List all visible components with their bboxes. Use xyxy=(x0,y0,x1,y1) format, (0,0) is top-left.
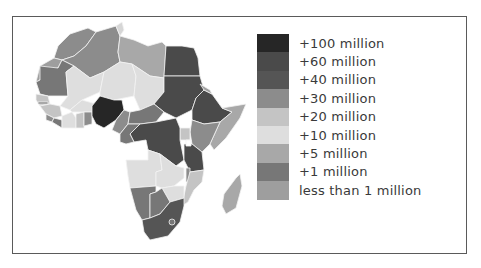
country-uganda xyxy=(180,128,190,140)
legend-item: +60 million xyxy=(257,52,421,70)
legend-item: +30 million xyxy=(257,89,421,107)
legend-swatch xyxy=(257,163,289,181)
legend-item: +5 million xyxy=(257,144,421,162)
country-guinea xyxy=(40,104,62,118)
legend-item: less than 1 million xyxy=(257,181,421,199)
country-gambia xyxy=(38,102,48,104)
legend-label: +100 million xyxy=(299,36,385,51)
legend-item: +100 million xyxy=(257,34,421,52)
legend-swatch xyxy=(257,89,289,107)
legend: +100 million +60 million +40 million +30… xyxy=(257,34,421,200)
country-ghana xyxy=(76,112,84,128)
country-mozambique xyxy=(182,170,204,206)
legend-item: +40 million xyxy=(257,71,421,89)
legend-label: +5 million xyxy=(299,146,368,161)
legend-swatch xyxy=(257,52,289,70)
country-togo-benin xyxy=(84,112,92,126)
legend-swatch xyxy=(257,34,289,52)
legend-label: +30 million xyxy=(299,91,376,106)
legend-swatch xyxy=(257,108,289,126)
country-egypt xyxy=(164,46,200,76)
legend-item: +1 million xyxy=(257,163,421,181)
legend-swatch xyxy=(257,144,289,162)
legend-label: +60 million xyxy=(299,54,376,69)
legend-swatch xyxy=(257,71,289,89)
legend-item: +10 million xyxy=(257,126,421,144)
country-madagascar xyxy=(222,174,242,214)
legend-label: +40 million xyxy=(299,72,376,87)
legend-item: +20 million xyxy=(257,108,421,126)
country-lesotho xyxy=(169,219,175,225)
country-ivory-coast xyxy=(62,112,76,128)
legend-swatch xyxy=(257,181,289,199)
legend-label: +1 million xyxy=(299,164,368,179)
country-liberia xyxy=(52,118,62,128)
legend-label: +10 million xyxy=(299,128,376,143)
legend-label: less than 1 million xyxy=(299,183,421,198)
legend-label: +20 million xyxy=(299,109,376,124)
lake-victoria xyxy=(186,140,191,146)
legend-swatch xyxy=(257,126,289,144)
